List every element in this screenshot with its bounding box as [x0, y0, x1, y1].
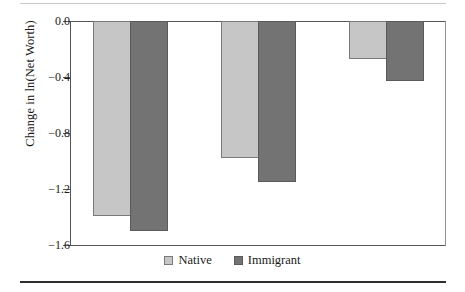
axis-line-right — [445, 21, 446, 246]
y-axis-tick-label: 0.0 — [12, 14, 70, 29]
legend-swatch-icon — [234, 256, 243, 265]
axis-line-bottom — [70, 245, 446, 246]
bar-native-group3 — [349, 21, 387, 59]
y-axis-tick-4: −1.6 — [0, 245, 70, 246]
legend-swatch-icon — [164, 256, 173, 265]
bar-immigrant-group3 — [386, 21, 424, 81]
legend-label: Native — [178, 253, 211, 268]
y-axis-tick-2: −0.8 — [0, 133, 70, 134]
chart-legend: NativeImmigrant — [0, 253, 465, 268]
y-axis-tick-label: −1.6 — [12, 238, 70, 253]
top-divider-rule — [20, 3, 446, 4]
y-axis-tick-label: −0.8 — [12, 126, 70, 141]
figure-container: Change in ln(Net Worth) 0.0−0.4−0.8−1.2−… — [0, 0, 465, 292]
plot-area — [70, 21, 445, 245]
y-axis-tick-3: −1.2 — [0, 189, 70, 190]
y-axis-tick-1: −0.4 — [0, 77, 70, 78]
bar-native-group1 — [93, 21, 131, 216]
bar-immigrant-group1 — [130, 21, 168, 231]
y-axis-tick-label: −0.4 — [12, 70, 70, 85]
legend-label: Immigrant — [248, 253, 301, 268]
bar-native-group2 — [221, 21, 259, 158]
legend-item-native: Native — [164, 253, 211, 268]
bottom-divider-rule — [20, 281, 446, 283]
y-axis-tick-0: 0.0 — [0, 21, 70, 22]
legend-item-immigrant: Immigrant — [234, 253, 301, 268]
bar-immigrant-group2 — [258, 21, 296, 182]
y-axis-tick-label: −1.2 — [12, 182, 70, 197]
